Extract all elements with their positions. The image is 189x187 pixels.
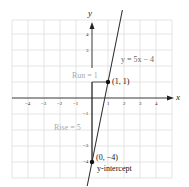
x-axis-label: x: [176, 93, 180, 102]
axes: [12, 22, 174, 160]
x-tick-label: −2: [57, 101, 62, 106]
x-tick-label: 1: [107, 101, 110, 106]
x-tick-label: 3: [139, 101, 142, 106]
coordinate-plane: [0, 0, 189, 187]
rise-label: Rise = 5: [54, 124, 81, 132]
point-label-1-1: (1, 1): [112, 78, 129, 86]
y-axis-arrow-icon: [90, 22, 95, 29]
x-tick-label: −1: [73, 101, 78, 106]
equation-label: y = 5x − 4: [121, 56, 154, 64]
y-tick-label: 4: [86, 32, 89, 37]
y-tick-label: −4: [83, 159, 88, 164]
y-tick-label: −1: [83, 111, 88, 116]
point-label-0-neg4: (0, −4): [96, 154, 118, 162]
x-axis-arrow-icon: [167, 96, 174, 101]
x-tick-label: −4: [25, 101, 30, 106]
x-tick-label: 2: [123, 101, 126, 106]
y-tick-label: 3: [86, 48, 89, 53]
x-tick-label: −3: [41, 101, 46, 106]
y-axis-label: y: [88, 9, 92, 18]
y-intercept-label: y-intercept: [97, 165, 132, 173]
run-label: Run = 1: [72, 72, 98, 80]
y-tick-label: −3: [83, 143, 88, 148]
point-0-neg4: [90, 160, 94, 164]
x-tick-label: 4: [155, 101, 158, 106]
point-1-1: [106, 80, 110, 84]
